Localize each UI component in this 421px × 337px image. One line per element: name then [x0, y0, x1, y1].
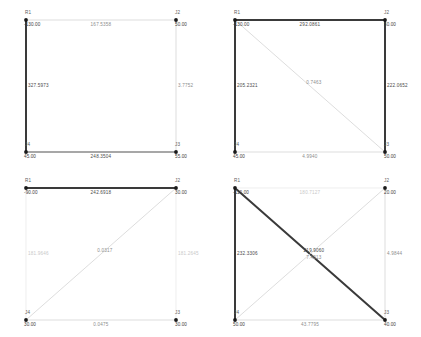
node-label-J4: J4 — [25, 310, 30, 315]
node-label-J4: J4 — [25, 142, 30, 147]
frame-stage: R1-90.00J230.00J330.00J430.00242.69180.0… — [4, 170, 214, 337]
node-label-R1: R1 — [25, 10, 31, 15]
member-label-left: 327.5973 — [28, 83, 49, 88]
frame-panel-bottom-right: R1-110.00J220.00J340.00J450.00180.712743… — [213, 170, 421, 337]
node-value-J2: 20.00 — [384, 190, 396, 195]
node-label-J3: J3 — [384, 142, 389, 147]
node-label-J3: J3 — [384, 310, 389, 315]
node-value-J2: 50.00 — [384, 22, 396, 27]
node-label-R1: R1 — [234, 178, 240, 183]
node-value-J3: 55.00 — [175, 154, 187, 159]
node-label-J3: J3 — [175, 310, 180, 315]
node-label-J4: J4 — [234, 310, 239, 315]
frame-stage: R1-130.00J250.00J355.00J445.00167.535824… — [4, 2, 214, 170]
member-label-diagonal-R1-J3: 219.9060 — [304, 248, 325, 253]
node-value-R1: -130.00 — [233, 22, 249, 27]
member-label-bottom: 248.3504 — [91, 154, 112, 159]
node-value-R1: -90.00 — [24, 190, 38, 195]
frame-panel-top-left: R1-130.00J250.00J355.00J445.00167.535824… — [4, 2, 214, 170]
member-label-bottom: 0.0475 — [93, 322, 108, 327]
node-value-J3: 40.00 — [384, 322, 396, 327]
node-value-R1: -110.00 — [233, 190, 249, 195]
node-label-J2: J2 — [175, 10, 180, 15]
member-label-right: 3.7752 — [178, 83, 193, 88]
frame-panel-top-right: R1-130.00J250.00J350.00J445.00292.08614.… — [213, 2, 421, 170]
member-label-top: 242.6918 — [91, 190, 112, 195]
node-value-J4: 45.00 — [24, 154, 36, 159]
node-value-J2: 30.00 — [175, 190, 187, 195]
node-value-J4: 50.00 — [233, 322, 245, 327]
member-label-top: 180.7127 — [300, 190, 321, 195]
node-label-J4: J4 — [234, 142, 239, 147]
frame-panel-bottom-left: R1-90.00J230.00J330.00J430.00242.69180.0… — [4, 170, 214, 337]
frame-stage: R1-130.00J250.00J350.00J445.00292.08614.… — [213, 2, 421, 170]
node-label-J2: J2 — [175, 178, 180, 183]
node-label-J3: J3 — [175, 142, 180, 147]
member-label-left: 232.3306 — [237, 251, 258, 256]
node-value-J2: 50.00 — [175, 22, 187, 27]
member-label-left: 181.9646 — [28, 251, 49, 256]
node-value-J3: 50.00 — [384, 154, 396, 159]
member-label-diagonal-J4-J2: 0.0317 — [97, 248, 112, 253]
node-value-R1: -130.00 — [24, 22, 40, 27]
member-label-top: 167.5358 — [91, 22, 112, 27]
node-value-J4: 45.00 — [233, 154, 245, 159]
member-label-left: 205.2321 — [237, 83, 258, 88]
node-value-J4: 30.00 — [24, 322, 36, 327]
diagram-sheet: R1-130.00J250.00J355.00J445.00167.535824… — [0, 0, 421, 337]
member-label-top: 292.0861 — [300, 22, 321, 27]
member-label-diagonal-R1-J3: 0.7463 — [306, 80, 321, 85]
member-label-right: 4.9844 — [387, 251, 402, 256]
member-label-diagonal-J4-J2: 7.4013 — [306, 255, 321, 260]
node-value-J3: 30.00 — [175, 322, 187, 327]
node-label-R1: R1 — [25, 178, 31, 183]
node-label-R1: R1 — [234, 10, 240, 15]
member-label-bottom: 4.9940 — [302, 154, 317, 159]
member-label-right: 222.0652 — [387, 83, 408, 88]
member-label-bottom: 43.7795 — [301, 322, 319, 327]
node-label-J2: J2 — [384, 10, 389, 15]
node-label-J2: J2 — [384, 178, 389, 183]
member-label-right: 181.2645 — [178, 251, 199, 256]
frame-stage: R1-110.00J220.00J340.00J450.00180.712743… — [213, 170, 421, 337]
